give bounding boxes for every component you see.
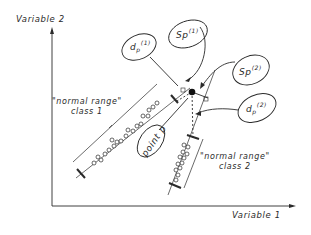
class2-class-text: class 2 (200, 162, 270, 172)
diagram-canvas: Variable 2 Variable 1 "normal range" cla… (0, 0, 311, 235)
class2-range-label: "normal range" class 2 (200, 152, 270, 172)
x-axis-label: Variable 1 (232, 210, 281, 220)
class1-range-label: "normal range" class 1 (52, 97, 122, 117)
sp2-leader (202, 62, 235, 86)
class2-samples (174, 143, 190, 182)
class2-normal-range-text: "normal range" (200, 152, 270, 162)
dp1-callout-text: dp(1) (130, 42, 151, 52)
diagram-svg (0, 0, 311, 235)
y-axis-arrow-icon (50, 27, 54, 34)
sp2-callout-text: Sp(2) (239, 67, 262, 77)
dp2-leader (198, 109, 238, 113)
x-axis-arrow-icon (289, 204, 296, 208)
right-angle-1 (181, 88, 185, 92)
dp1-leader (150, 57, 178, 86)
y-axis-label: Variable 2 (16, 14, 65, 24)
class1-normal-range-text: "normal range" (52, 97, 122, 107)
class1-class-text: class 1 (52, 107, 122, 117)
sp1-callout-text: Sp(1) (176, 30, 199, 40)
dp2-callout-text: dp(2) (246, 104, 267, 114)
point-p-marker (189, 89, 196, 96)
